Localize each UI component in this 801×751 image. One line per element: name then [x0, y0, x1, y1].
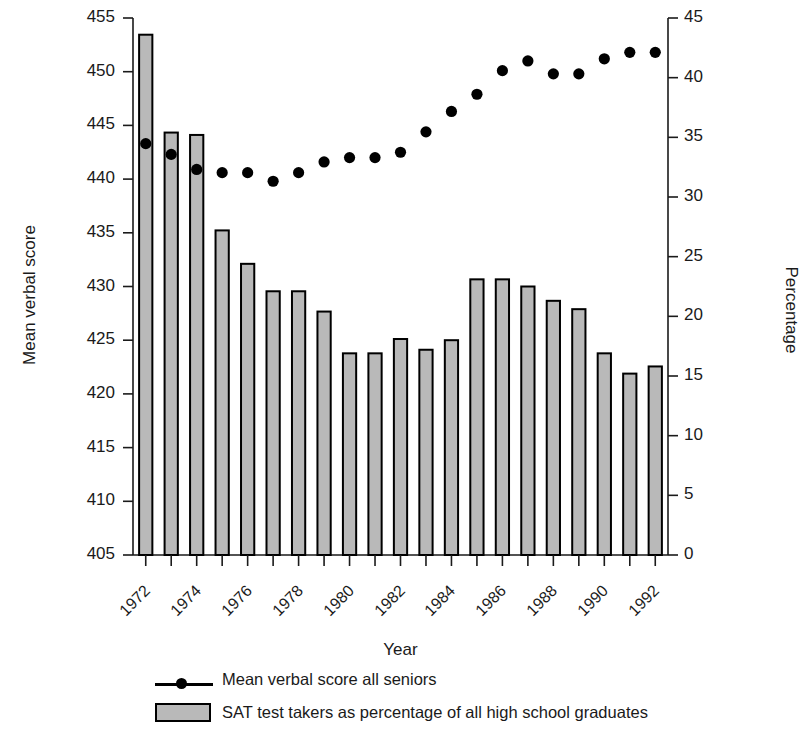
y-axis-left-tick-label: 455	[55, 7, 115, 27]
y-axis-left-tick-label: 430	[55, 276, 115, 296]
legend-bar-swatch	[155, 703, 211, 722]
data-point	[395, 147, 406, 158]
y-axis-left-tick-label: 405	[55, 544, 115, 564]
data-point	[293, 167, 304, 178]
bar	[216, 230, 229, 555]
x-axis-title: Year	[0, 640, 801, 660]
bar	[368, 353, 381, 555]
bar	[623, 374, 636, 555]
y-axis-right-tick-label: 35	[684, 126, 744, 146]
bar	[394, 339, 407, 555]
bar	[343, 353, 356, 555]
data-point	[548, 68, 559, 79]
y-axis-right-tick-label: 15	[684, 365, 744, 385]
y-axis-right-tick-label: 5	[684, 484, 744, 504]
legend-item-mean-verbal-score: Mean verbal score all seniors	[222, 670, 437, 689]
legend-item-sat-test-takers: SAT test takers as percentage of all hig…	[222, 703, 648, 722]
data-point	[268, 176, 279, 187]
y-axis-left-tick-label: 410	[55, 490, 115, 510]
y-axis-left-tick-label: 415	[55, 437, 115, 457]
bar	[139, 35, 152, 555]
data-point	[217, 167, 228, 178]
y-axis-left-title: Mean verbal score	[20, 185, 40, 405]
data-point	[650, 47, 661, 58]
data-point	[599, 53, 610, 64]
plot-area	[0, 0, 801, 751]
y-axis-left-tick-label: 425	[55, 329, 115, 349]
y-axis-left-tick-label: 445	[55, 114, 115, 134]
bar	[241, 264, 254, 555]
data-point	[446, 106, 457, 117]
y-axis-right-tick-label: 30	[684, 186, 744, 206]
data-point	[166, 149, 177, 160]
y-axis-right-tick-label: 45	[684, 7, 744, 27]
data-point	[344, 152, 355, 163]
y-axis-left-tick-label: 435	[55, 222, 115, 242]
data-point	[318, 156, 329, 167]
bar	[165, 133, 178, 555]
data-point	[573, 68, 584, 79]
y-axis-right-tick-label: 10	[684, 425, 744, 445]
y-axis-right-tick-label: 25	[684, 246, 744, 266]
bar	[470, 279, 483, 555]
bar	[598, 353, 611, 555]
bar	[317, 312, 330, 555]
bar	[419, 350, 432, 555]
bar	[547, 301, 560, 555]
bar	[496, 279, 509, 555]
y-axis-left-tick-label: 440	[55, 168, 115, 188]
bar	[572, 309, 585, 555]
y-axis-left-tick-label: 420	[55, 383, 115, 403]
data-point	[471, 89, 482, 100]
bar	[521, 287, 534, 556]
bar	[445, 340, 458, 555]
data-point	[191, 164, 202, 175]
sat-verbal-score-chart: Mean verbal score Percentage Year 405410…	[0, 0, 801, 751]
legend-dot-marker	[176, 678, 187, 689]
y-axis-left-tick-label: 450	[55, 61, 115, 81]
bar	[267, 291, 280, 555]
bar	[649, 366, 662, 555]
y-axis-right-tick-label: 0	[684, 544, 744, 564]
data-point	[140, 138, 151, 149]
y-axis-right-tick-label: 40	[684, 67, 744, 87]
data-point	[522, 55, 533, 66]
y-axis-right-tick-label: 20	[684, 305, 744, 325]
data-point	[420, 126, 431, 137]
bar	[190, 135, 203, 555]
data-point	[369, 152, 380, 163]
data-point	[624, 47, 635, 58]
data-point	[497, 65, 508, 76]
data-point	[242, 167, 253, 178]
bar	[292, 291, 305, 555]
y-axis-right-title: Percentage	[781, 200, 801, 420]
